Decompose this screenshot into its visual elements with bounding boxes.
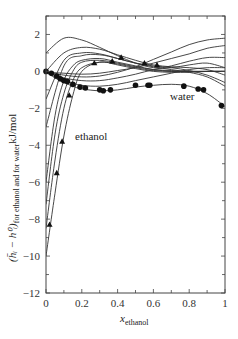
water-data-point — [70, 82, 76, 88]
y-tick-label: −8 — [28, 213, 40, 225]
water-data-point — [181, 83, 187, 89]
x-tick-label: 0 — [43, 297, 49, 309]
water-data-point — [219, 103, 225, 109]
plot-markers — [43, 54, 224, 227]
y-axis-title-unit: kJ/mol — [6, 114, 18, 144]
y-tick-label: −12 — [23, 287, 40, 299]
x-axis-title-sub: ethanol — [125, 318, 149, 327]
y-tick-label: −10 — [23, 250, 41, 262]
y-tick-label: −6 — [28, 176, 40, 188]
y-axis-title: (h̄ᵢ − h⁰ᵢ)for ethanol and for waterkJ/m… — [6, 114, 21, 262]
y-tick-label: 2 — [35, 28, 41, 40]
x-tick-label: 0.8 — [182, 297, 196, 309]
ethanol-data-point — [59, 138, 65, 143]
y-tick-label: 0 — [35, 65, 41, 77]
water-data-point — [147, 82, 153, 88]
annotation-water: water — [170, 90, 195, 102]
water-data-point — [83, 85, 89, 91]
annotation-ethanol: ethanol — [75, 130, 107, 142]
water-data-point — [100, 88, 106, 94]
chart-canvas: 00.20.40.60.8120−2−4−6−8−10−12 water eth… — [0, 0, 238, 339]
y-tick-label: −4 — [28, 139, 40, 151]
x-tick-label: 0.4 — [111, 297, 125, 309]
water-data-point — [133, 82, 139, 88]
water-data-point — [77, 84, 83, 90]
water-data-point — [201, 87, 207, 93]
water-data-point — [65, 79, 71, 85]
plot-frame — [46, 16, 225, 293]
x-tick-label: 0.2 — [75, 297, 89, 309]
y-axis-title-main: (h̄ᵢ − h⁰ᵢ) — [6, 223, 19, 262]
x-tick-label: 1 — [222, 297, 228, 309]
water-data-point — [108, 87, 114, 93]
ethanol-data-point — [47, 221, 53, 226]
x-tick-label: 0.6 — [147, 297, 161, 309]
water-data-point — [195, 86, 201, 92]
x-axis-title: xethanol — [119, 312, 149, 327]
y-axis-title-sub: for ethanol and for water — [12, 143, 21, 223]
ethanol-data-point — [54, 170, 60, 175]
plot-lines — [46, 37, 225, 256]
series-line — [46, 58, 225, 182]
y-tick-label: −2 — [28, 102, 40, 114]
axis-ticks — [46, 16, 225, 293]
series-line — [46, 57, 225, 81]
